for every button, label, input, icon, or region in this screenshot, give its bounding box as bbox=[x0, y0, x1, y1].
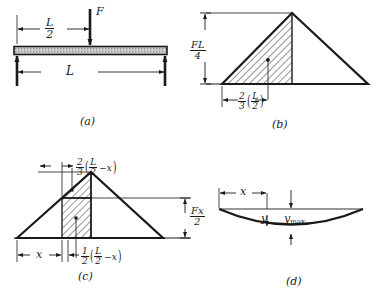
inner-2-b: 2 bbox=[251, 101, 259, 111]
panel-a-graphics bbox=[14, 9, 167, 86]
close-paren-b: ) bbox=[260, 96, 264, 107]
panel-c-label: (c) bbox=[78, 270, 93, 283]
half-span-numerator: L bbox=[45, 17, 54, 28]
tri-two-thirds-denominator: 3 bbox=[76, 167, 84, 177]
half-numerator: 1 bbox=[81, 247, 89, 256]
panel-a-label: (a) bbox=[80, 115, 95, 128]
x-distance-label-c: x bbox=[36, 248, 42, 261]
minus-x-c1: −x bbox=[97, 163, 112, 173]
x-distance-label-d: x bbox=[240, 185, 246, 198]
ymax-subscript: max bbox=[290, 218, 305, 226]
figure-linework bbox=[0, 0, 378, 299]
half-span-label: L 2 bbox=[45, 17, 54, 41]
minus-x-c2: −x bbox=[102, 252, 117, 262]
beam-body bbox=[14, 47, 167, 55]
rect-centroid-label: 1 2 ( L 2 −x ) bbox=[81, 246, 122, 267]
inner-L-b: L bbox=[251, 92, 259, 101]
ordinate-denominator: 2 bbox=[190, 216, 205, 227]
panel-b-graphics bbox=[200, 13, 368, 107]
panel-b-label: (b) bbox=[272, 118, 288, 131]
max-deflection-label: ymax bbox=[284, 212, 305, 226]
two-thirds-denominator: 3 bbox=[238, 101, 246, 111]
ordinate-numerator: Fx bbox=[190, 206, 205, 216]
peak-moment-numerator: FL bbox=[190, 40, 206, 50]
close-paren-c1: ) bbox=[113, 162, 117, 173]
open-paren-b: ( bbox=[247, 96, 251, 107]
inner-L-c2: L bbox=[94, 247, 102, 256]
panel-d-label: (d) bbox=[286, 275, 302, 288]
applied-load-label: F bbox=[96, 5, 104, 18]
beam-mechanics-figure: F L 2 L (a) FL 4 2 3 ( L 2 ) (b) bbox=[0, 0, 378, 299]
triangle-centroid-label: 2 3 ( L 2 −x ) bbox=[76, 157, 117, 178]
span-label: L bbox=[66, 64, 74, 78]
peak-moment-label: FL 4 bbox=[190, 40, 206, 62]
open-paren-c1: ( bbox=[85, 162, 89, 173]
inner-L-c1: L bbox=[89, 158, 97, 167]
close-paren-c2: ) bbox=[118, 251, 122, 262]
inner-2-c1: 2 bbox=[89, 167, 97, 177]
peak-moment-denominator: 4 bbox=[190, 50, 206, 61]
tri-two-thirds-numerator: 2 bbox=[76, 158, 84, 167]
inner-2-c2: 2 bbox=[94, 256, 102, 266]
deflection-label: y bbox=[261, 212, 267, 225]
open-paren-c2: ( bbox=[90, 251, 94, 262]
half-span-denominator: 2 bbox=[45, 28, 54, 40]
two-thirds-numerator: 2 bbox=[238, 92, 246, 101]
ordinate-label: Fx 2 bbox=[190, 206, 205, 228]
centroid-distance-label: 2 3 ( L 2 ) bbox=[238, 91, 265, 112]
half-denominator: 2 bbox=[81, 256, 89, 266]
